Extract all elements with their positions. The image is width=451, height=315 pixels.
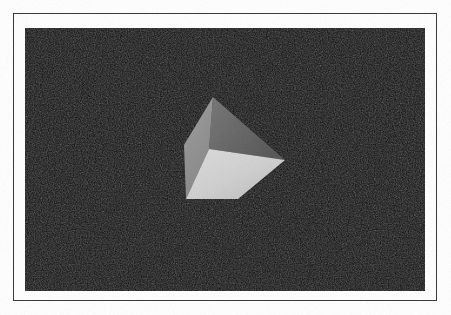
cube-scene: [25, 28, 425, 291]
figure-page: [0, 0, 451, 315]
plate-frame: [13, 13, 437, 301]
plate-matte: [14, 14, 436, 300]
render-canvas: [25, 28, 425, 291]
cube-face-top: [209, 97, 285, 160]
